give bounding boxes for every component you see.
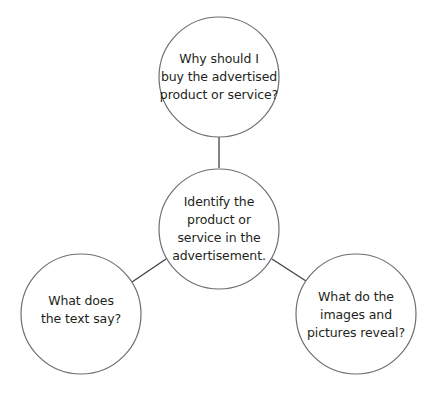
- node-top-line-1: Why should I: [179, 50, 259, 68]
- node-right-line-3: pictures reveal?: [307, 324, 405, 342]
- node-left-text: What does the text say?: [21, 289, 141, 331]
- node-right-text: What do the images and pictures reveal?: [296, 285, 416, 345]
- node-center-line-1: Identify the: [184, 193, 254, 211]
- node-top-text: Why should I buy the advertised product …: [159, 41, 279, 113]
- node-center-line-2: product or: [187, 211, 251, 229]
- node-right-line-1: What do the: [318, 288, 394, 306]
- node-left-line-2: the text say?: [41, 310, 121, 328]
- node-center-line-3: service in the: [177, 229, 260, 247]
- node-right-line-2: images and: [320, 306, 392, 324]
- node-top-line-3: product or service?: [160, 86, 278, 104]
- node-center-text: Identify the product or service in the a…: [159, 187, 279, 271]
- node-top-line-2: buy the advertised: [161, 68, 277, 86]
- node-left-line-1: What does: [48, 292, 114, 310]
- node-center-line-4: advertisement.: [172, 247, 266, 265]
